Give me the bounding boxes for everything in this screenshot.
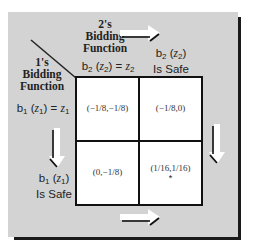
cell-r2-c1: (0,−1/8) (75, 140, 140, 206)
cell-payoff: (−1/8,−1/8) (77, 103, 138, 113)
player1-label-line1: 1's (14, 56, 70, 68)
cell-r1-c2: (−1/8,0) (138, 76, 203, 142)
col2-sub2: 2 (178, 52, 182, 61)
cell-payoff: (0,−1/8) (77, 167, 138, 177)
row1-eq: = (51, 102, 58, 114)
cell-r1-c1: (−1/8,−1/8) (75, 76, 140, 142)
arrow-down-right-icon (208, 122, 228, 168)
col2-sub1: 2 (162, 52, 166, 61)
cell-payoff: (1/16,1/16) (140, 163, 201, 173)
arrow-right-top-icon (118, 24, 164, 44)
row2-sub2: 1 (61, 177, 65, 186)
row1-header: b1 (z1) = z1 (10, 102, 76, 118)
row2-sub1: 1 (45, 177, 49, 186)
col1-header: b2 (z2) = z2 (76, 60, 140, 76)
row2-suffix: Is Safe (34, 188, 74, 200)
equilibrium-marker: * (140, 173, 201, 183)
player1-label-line2: Bidding (14, 68, 70, 80)
col2-header: b2 (z2) Is Safe (140, 47, 202, 75)
player1-label-line3: Function (14, 80, 70, 92)
col1-sub1: 2 (88, 65, 92, 74)
row2-header: b1 (z1) Is Safe (34, 172, 74, 200)
player1-label: 1's Bidding Function (14, 56, 70, 92)
col1-eq: = (116, 60, 123, 72)
cell-r2-c2: (1/16,1/16) * (138, 140, 203, 206)
row1-sub1: 1 (23, 107, 27, 116)
arrow-down-left-icon (48, 126, 68, 172)
col1-sub3: 2 (130, 65, 134, 74)
arrow-right-bottom-icon (118, 208, 164, 228)
col2-suffix: Is Safe (140, 63, 202, 75)
row1-sub2: 1 (39, 107, 43, 116)
row1-sub3: 1 (65, 107, 69, 116)
col1-sub2: 2 (104, 65, 108, 74)
cell-payoff: (−1/8,0) (140, 103, 201, 113)
